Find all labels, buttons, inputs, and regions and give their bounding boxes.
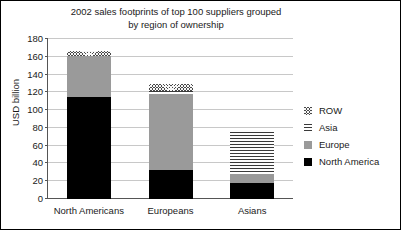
bar-segment[interactable] <box>149 84 193 91</box>
chart-figure: 2002 sales footprints of top 100 supplie… <box>0 0 401 230</box>
bar-segment[interactable] <box>230 132 274 174</box>
y-axis-label: USD billion <box>10 63 21 143</box>
bar-segment[interactable] <box>67 51 111 56</box>
y-tick-label: 100 <box>27 104 43 115</box>
x-tick-label: Europeans <box>148 205 194 216</box>
bar-segment[interactable] <box>149 94 193 170</box>
y-tick-label: 0 <box>38 193 43 204</box>
y-tick-label: 60 <box>32 139 43 150</box>
legend-item[interactable]: Asia <box>304 119 379 136</box>
horizontal-lines-swatch <box>304 124 312 132</box>
y-tick-label: 120 <box>27 86 43 97</box>
bar-segment[interactable] <box>230 174 274 183</box>
bar-segment[interactable] <box>230 183 274 199</box>
gray-swatch <box>304 141 312 149</box>
y-tick-label: 80 <box>32 121 43 132</box>
legend-item-label: Europe <box>319 139 350 150</box>
plot-area: 020406080100120140160180 <box>48 39 293 199</box>
y-tick-mark <box>45 56 48 57</box>
x-tick-label: North Americans <box>54 205 124 216</box>
bar-segment[interactable] <box>67 56 111 97</box>
y-tick-mark <box>45 145 48 146</box>
chart-title: 2002 sales footprints of top 100 supplie… <box>41 5 311 31</box>
bar-segment[interactable] <box>149 91 193 94</box>
crosshatch-swatch <box>304 107 312 115</box>
bar-segment[interactable] <box>67 97 111 199</box>
y-tick-mark <box>45 109 48 110</box>
legend-item-label: ROW <box>319 105 342 116</box>
legend-item[interactable]: North America <box>304 153 379 170</box>
legend-item-label: North America <box>319 156 379 167</box>
x-tick-label: Asians <box>238 205 267 216</box>
gridline: 180 <box>48 38 293 39</box>
y-tick-mark <box>45 74 48 75</box>
y-tick-label: 180 <box>27 33 43 44</box>
y-tick-label: 160 <box>27 50 43 61</box>
y-tick-mark <box>45 180 48 181</box>
y-tick-label: 20 <box>32 175 43 186</box>
y-tick-mark <box>45 162 48 163</box>
y-tick-mark <box>45 198 48 199</box>
y-tick-mark <box>45 127 48 128</box>
legend-item-label: Asia <box>319 122 337 133</box>
y-tick-mark <box>45 91 48 92</box>
black-swatch <box>304 158 312 166</box>
chart-legend: ROWAsiaEuropeNorth America <box>304 102 379 170</box>
y-tick-mark <box>45 38 48 39</box>
legend-item[interactable]: ROW <box>304 102 379 119</box>
y-tick-label: 140 <box>27 68 43 79</box>
bar-segment[interactable] <box>149 170 193 199</box>
y-axis-line <box>47 39 48 199</box>
legend-item[interactable]: Europe <box>304 136 379 153</box>
y-tick-label: 40 <box>32 157 43 168</box>
